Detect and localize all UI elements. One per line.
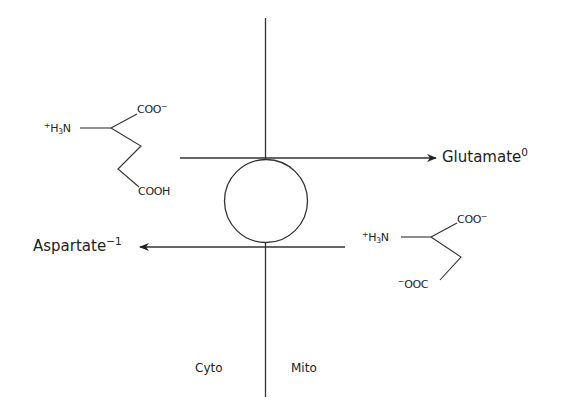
mito-label: Mito — [291, 362, 317, 374]
aspartate-amine-label: +H3N — [362, 232, 389, 243]
transporter-circle — [225, 160, 308, 243]
aspartate-alpha-carboxyl-label: COO− — [457, 214, 487, 225]
glutamate-side-chain-label: COOH — [138, 186, 170, 197]
aspartate-name-label: Aspartate−1 — [33, 239, 122, 254]
cyto-label: Cyto — [195, 362, 223, 374]
glutamate-amine-label: +H3N — [44, 123, 71, 134]
aspartate-structure-bonds — [401, 223, 461, 280]
glutamate-alpha-carboxyl-label: COO− — [137, 104, 167, 115]
aspartate-side-chain-label: −OOC — [398, 279, 428, 290]
glutamate-name-label: Glutamate0 — [442, 150, 528, 165]
glutamate-structure-bonds — [80, 114, 141, 187]
diagram-canvas — [0, 0, 571, 418]
